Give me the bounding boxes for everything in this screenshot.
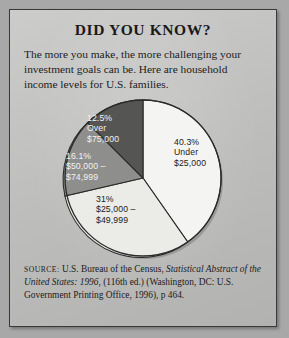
source-label: Source: [24, 265, 60, 274]
pie-label-over-75000: 12.5% Over $75,000 [87, 113, 119, 145]
source-text-part1: U.S. Bureau of the Census, [60, 264, 167, 274]
pie-label-percent: 16.1% [66, 151, 106, 162]
pie-label-percent: 31% [96, 194, 136, 205]
source-citation: Source: U.S. Bureau of the Census, Stati… [24, 263, 262, 302]
pie-label-percent: 40.3% [174, 137, 206, 148]
pie-label-under-25000: 40.3% Under $25,000 [174, 137, 206, 169]
pie-label-range-line2: $74,999 [66, 172, 106, 183]
did-you-know-card: DID YOU KNOW? The more you make, the mor… [9, 9, 277, 327]
page-background: DID YOU KNOW? The more you make, the mor… [0, 0, 289, 338]
pie-label-percent: 12.5% [87, 113, 119, 124]
pie-label-range-line1: Under [174, 147, 206, 158]
page-title: DID YOU KNOW? [24, 21, 262, 38]
pie-label-range-line1: $50,000 – [66, 161, 106, 172]
pie-label-range-line2: $25,000 [174, 158, 206, 169]
intro-paragraph: The more you make, the more challenging … [24, 47, 262, 93]
pie-label-range-line2: $75,000 [87, 134, 119, 145]
pie-label-50000-74999: 16.1% $50,000 – $74,999 [66, 151, 106, 183]
pie-label-range-line1: Over [87, 123, 119, 134]
pie-label-range-line1: $25,000 – [96, 204, 136, 215]
income-pie-chart: 40.3% Under $25,000 31% $25,000 – $49,99… [24, 97, 262, 260]
pie-label-range-line2: $49,999 [96, 215, 136, 226]
pie-label-25000-49999: 31% $25,000 – $49,999 [96, 194, 136, 226]
